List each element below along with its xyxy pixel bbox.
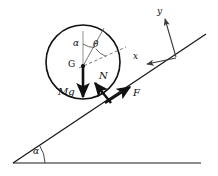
friction-force-label: F (133, 88, 140, 98)
axis-y-line (165, 19, 176, 57)
weight-label: Mg (58, 87, 75, 97)
angle-theta-arc (96, 49, 106, 57)
axis-y-label: y (157, 7, 162, 16)
incline-line (13, 34, 206, 163)
angle-alpha-base-label: α (33, 147, 39, 156)
angle-alpha-base-arc (40, 146, 45, 164)
normal-force-label: N (99, 71, 108, 81)
center-label-G: G (68, 60, 75, 69)
angle-alpha-top-label: α (73, 39, 79, 48)
center-point-dot (81, 64, 85, 68)
axis-x-label: x (133, 52, 138, 61)
angle-theta-label: θ (93, 40, 98, 49)
physics-diagram-canvas: G Mg N F x y α θ α (0, 0, 218, 176)
